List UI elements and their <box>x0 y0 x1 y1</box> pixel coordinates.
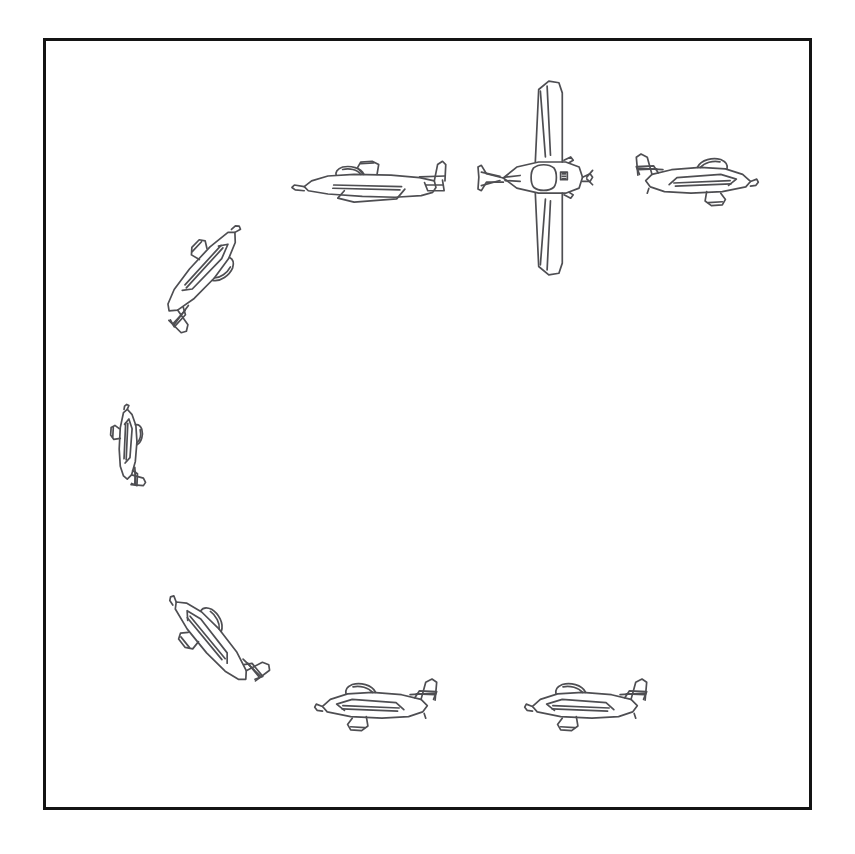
aeroplane-figure-12-o-clock <box>478 72 596 284</box>
aeroplane-figure-1-o-clock <box>628 140 758 226</box>
aeroplane-figure-5-o-clock <box>518 665 662 751</box>
aeroplane-figure-9-o-clock <box>57 405 197 491</box>
illustration-frame <box>43 38 812 810</box>
illustration-canvas <box>0 0 855 854</box>
aeroplane-figure-10-o-clock <box>110 185 287 363</box>
aeroplane-figure-11-o-clock <box>288 140 453 230</box>
aeroplane-figure-7-o-clock <box>308 665 452 751</box>
aeroplane-figure-8-o-clock <box>126 556 301 732</box>
